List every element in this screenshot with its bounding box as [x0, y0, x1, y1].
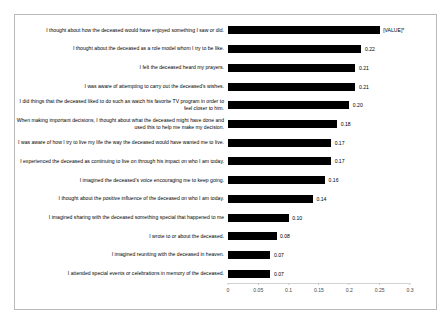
bar-value-label: 0.07 [274, 271, 284, 277]
x-tick: 0.15 [314, 283, 324, 293]
category-label: I did things that the deceased liked to … [15, 98, 228, 112]
bar [228, 270, 270, 278]
plot-area: I thought about how the deceased would h… [15, 15, 436, 309]
category-label: I imagined reuniting with the deceased i… [15, 251, 228, 258]
bar-track: 0.20 [228, 96, 438, 115]
x-tick-label: 0.1 [285, 287, 292, 293]
x-tick-mark [228, 283, 229, 285]
bar [228, 120, 337, 128]
x-tick-label: 0.05 [253, 287, 263, 293]
x-tick-label: 0.25 [375, 287, 385, 293]
bar-row: I thought about how the deceased would h… [15, 21, 438, 40]
category-label: I experienced the deceased as continuing… [15, 158, 228, 165]
bar-row: I felt the deceased heard my prayers.0.2… [15, 58, 438, 77]
category-label: I thought about the positive influence o… [15, 195, 228, 202]
category-label: I thought about how the deceased would h… [15, 27, 228, 34]
bar-value-label: 0.17 [335, 140, 345, 146]
bar [228, 176, 325, 184]
bar [228, 45, 361, 53]
bar-row: I thought about the positive influence o… [15, 189, 438, 208]
bar-value-label: 0.18 [341, 121, 351, 127]
x-tick-mark [318, 283, 319, 285]
category-label: I imagined the deceased's voice encourag… [15, 177, 228, 184]
x-tick-mark [288, 283, 289, 285]
x-tick: 0.25 [375, 283, 385, 293]
category-label: I attended special events or celebration… [15, 270, 228, 277]
bar-value-label: 0.08 [280, 233, 290, 239]
bar-row: I did things that the deceased liked to … [15, 96, 438, 115]
x-tick: 0.05 [253, 283, 263, 293]
bar-track: [VALUE]* [228, 21, 438, 40]
bar-row: I experienced the deceased as continuing… [15, 152, 438, 171]
bar-track: 0.22 [228, 40, 438, 59]
category-label: When making important decisions, I thoug… [15, 117, 228, 131]
bar-value-label: 0.16 [329, 177, 339, 183]
bar-track: 0.10 [228, 208, 438, 227]
x-tick: 0.1 [285, 283, 292, 293]
chart-container: I thought about how the deceased would h… [14, 14, 437, 310]
bar [228, 251, 270, 259]
bar [228, 101, 349, 109]
bar-value-label: [VALUE]* [383, 27, 404, 33]
bar-track: 0.21 [228, 58, 438, 77]
bar-track: 0.17 [228, 133, 438, 152]
category-label: I wrote to or about the deceased. [15, 233, 228, 240]
category-label: I imagined sharing with the deceased som… [15, 214, 228, 221]
x-tick: 0.3 [406, 283, 413, 293]
category-label: I was aware of attempting to carry out t… [15, 83, 228, 90]
bar-value-label: 0.14 [316, 196, 326, 202]
bar-row: I was aware of attempting to carry out t… [15, 77, 438, 96]
x-tick-mark [258, 283, 259, 285]
bar-row: I imagined the deceased's voice encourag… [15, 171, 438, 190]
x-tick-label: 0.15 [314, 287, 324, 293]
bar-track: 0.18 [228, 115, 438, 134]
bar-value-label: 0.10 [292, 215, 302, 221]
bar [228, 139, 331, 147]
bar-track: 0.14 [228, 189, 438, 208]
x-axis: 00.050.10.150.20.250.3 [228, 283, 438, 305]
bar-track: 0.07 [228, 264, 438, 283]
x-tick-mark [379, 283, 380, 285]
bar-value-label: 0.07 [274, 252, 284, 258]
x-tick-label: 0 [227, 287, 230, 293]
bar [228, 83, 355, 91]
bar-value-label: 0.22 [365, 46, 375, 52]
x-tick-mark [349, 283, 350, 285]
bar-row: I was aware of how I try to live my life… [15, 133, 438, 152]
bar [228, 232, 277, 240]
bar-row: I wrote to or about the deceased.0.08 [15, 227, 438, 246]
bar-track: 0.16 [228, 171, 438, 190]
x-tick-label: 0.3 [406, 287, 413, 293]
bar-value-label: 0.20 [353, 102, 363, 108]
bar [228, 157, 331, 165]
bar-row: When making important decisions, I thoug… [15, 115, 438, 134]
bar-value-label: 0.21 [359, 65, 369, 71]
category-label: I felt the deceased heard my prayers. [15, 64, 228, 71]
x-tick-mark [410, 283, 411, 285]
x-tick-label: 0.2 [346, 287, 353, 293]
x-axis-ticks: 00.050.10.150.20.250.3 [228, 283, 410, 305]
bar-value-label: 0.17 [335, 158, 345, 164]
bar-rows: I thought about how the deceased would h… [15, 21, 438, 283]
bar [228, 64, 355, 72]
bar-row: I imagined sharing with the deceased som… [15, 208, 438, 227]
category-label: I thought about the deceased as a role m… [15, 45, 228, 52]
bar [228, 26, 380, 34]
x-tick: 0 [227, 283, 230, 293]
bar [228, 195, 313, 203]
bar-track: 0.17 [228, 152, 438, 171]
x-tick: 0.2 [346, 283, 353, 293]
bar-track: 0.21 [228, 77, 438, 96]
bar [228, 214, 289, 222]
bar-value-label: 0.21 [359, 84, 369, 90]
bar-row: I thought about the deceased as a role m… [15, 40, 438, 59]
bar-row: I attended special events or celebration… [15, 264, 438, 283]
bar-track: 0.07 [228, 246, 438, 265]
category-label: I was aware of how I try to live my life… [15, 139, 228, 146]
bar-row: I imagined reuniting with the deceased i… [15, 246, 438, 265]
bar-track: 0.08 [228, 227, 438, 246]
